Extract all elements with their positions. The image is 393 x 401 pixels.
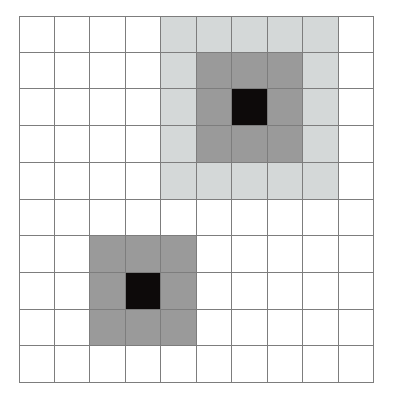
grid-cell-r2-c2 bbox=[55, 53, 91, 90]
grid-cell-r6-c1 bbox=[19, 200, 55, 237]
grid-cell-r1-c2 bbox=[55, 16, 91, 53]
grid-cell-r10-c6 bbox=[197, 346, 233, 383]
grid-cell-r4-c2 bbox=[55, 126, 91, 163]
grid-cell-r2-c7 bbox=[232, 53, 268, 90]
grid-cell-r10-c1 bbox=[19, 346, 55, 383]
grid-cell-r1-c1 bbox=[19, 16, 55, 53]
grid-cell-r3-c2 bbox=[55, 89, 91, 126]
grid-cell-r2-c4 bbox=[126, 53, 162, 90]
grid-cell-r4-c6 bbox=[197, 126, 233, 163]
grid-cell-r2-c5 bbox=[161, 53, 197, 90]
grid-cell-r6-c6 bbox=[197, 200, 233, 237]
grid-cell-r7-c8 bbox=[268, 236, 304, 273]
grid-cell-r8-c9 bbox=[303, 273, 339, 310]
grid-cell-r3-c5 bbox=[161, 89, 197, 126]
grid-cell-r10-c10 bbox=[339, 346, 375, 383]
grid-cell-r6-c9 bbox=[303, 200, 339, 237]
grid-cell-r7-c4 bbox=[126, 236, 162, 273]
grid-cell-r5-c1 bbox=[19, 163, 55, 200]
grid-cell-r9-c6 bbox=[197, 310, 233, 347]
grid-cell-r3-c3 bbox=[90, 89, 126, 126]
grid-cell-r4-c3 bbox=[90, 126, 126, 163]
grid-cell-r8-c1 bbox=[19, 273, 55, 310]
grid-cell-r3-c9 bbox=[303, 89, 339, 126]
grid-cell-r6-c3 bbox=[90, 200, 126, 237]
grid-cell-r4-c5 bbox=[161, 126, 197, 163]
grid-cell-r8-c3 bbox=[90, 273, 126, 310]
grid-cell-r5-c10 bbox=[339, 163, 375, 200]
grid-cell-r9-c3 bbox=[90, 310, 126, 347]
grid-cell-r9-c7 bbox=[232, 310, 268, 347]
grid-cell-r10-c2 bbox=[55, 346, 91, 383]
grid-cell-r3-c4 bbox=[126, 89, 162, 126]
grid-cells bbox=[19, 16, 374, 383]
grid-container bbox=[19, 16, 374, 383]
grid-cell-r2-c3 bbox=[90, 53, 126, 90]
grid-figure-canvas bbox=[0, 0, 393, 401]
grid-cell-r9-c10 bbox=[339, 310, 375, 347]
grid-cell-r9-c1 bbox=[19, 310, 55, 347]
grid-cell-r5-c7 bbox=[232, 163, 268, 200]
grid-cell-r4-c8 bbox=[268, 126, 304, 163]
grid-cell-r2-c1 bbox=[19, 53, 55, 90]
grid-cell-r4-c7 bbox=[232, 126, 268, 163]
grid-cell-r8-c4 bbox=[126, 273, 162, 310]
grid-cell-r8-c2 bbox=[55, 273, 91, 310]
grid-cell-r9-c5 bbox=[161, 310, 197, 347]
grid-cell-r6-c8 bbox=[268, 200, 304, 237]
grid-cell-r7-c6 bbox=[197, 236, 233, 273]
grid-cell-r4-c10 bbox=[339, 126, 375, 163]
grid-cell-r3-c6 bbox=[197, 89, 233, 126]
grid-cell-r8-c7 bbox=[232, 273, 268, 310]
grid-cell-r1-c10 bbox=[339, 16, 375, 53]
grid-cell-r4-c1 bbox=[19, 126, 55, 163]
grid-cell-r1-c7 bbox=[232, 16, 268, 53]
grid-cell-r6-c10 bbox=[339, 200, 375, 237]
grid-cell-r6-c2 bbox=[55, 200, 91, 237]
grid-cell-r5-c2 bbox=[55, 163, 91, 200]
grid-cell-r3-c1 bbox=[19, 89, 55, 126]
grid-cell-r9-c9 bbox=[303, 310, 339, 347]
grid-cell-r6-c7 bbox=[232, 200, 268, 237]
grid-cell-r3-c8 bbox=[268, 89, 304, 126]
grid-cell-r7-c10 bbox=[339, 236, 375, 273]
grid-cell-r10-c8 bbox=[268, 346, 304, 383]
grid-cell-r2-c10 bbox=[339, 53, 375, 90]
grid-cell-r1-c9 bbox=[303, 16, 339, 53]
grid-cell-r7-c1 bbox=[19, 236, 55, 273]
grid-cell-r5-c9 bbox=[303, 163, 339, 200]
grid-cell-r10-c3 bbox=[90, 346, 126, 383]
grid-cell-r1-c5 bbox=[161, 16, 197, 53]
grid-cell-r1-c6 bbox=[197, 16, 233, 53]
grid-cell-r8-c8 bbox=[268, 273, 304, 310]
grid-cell-r7-c9 bbox=[303, 236, 339, 273]
grid-cell-r10-c9 bbox=[303, 346, 339, 383]
grid-cell-r7-c3 bbox=[90, 236, 126, 273]
grid-cell-r5-c3 bbox=[90, 163, 126, 200]
grid-cell-r9-c8 bbox=[268, 310, 304, 347]
grid-cell-r4-c4 bbox=[126, 126, 162, 163]
grid-cell-r1-c4 bbox=[126, 16, 162, 53]
grid-cell-r10-c4 bbox=[126, 346, 162, 383]
grid-cell-r3-c10 bbox=[339, 89, 375, 126]
grid-cell-r7-c2 bbox=[55, 236, 91, 273]
grid-cell-r5-c5 bbox=[161, 163, 197, 200]
grid-cell-r8-c10 bbox=[339, 273, 375, 310]
grid-cell-r1-c8 bbox=[268, 16, 304, 53]
grid-cell-r8-c6 bbox=[197, 273, 233, 310]
grid-cell-r7-c7 bbox=[232, 236, 268, 273]
grid-cell-r1-c3 bbox=[90, 16, 126, 53]
grid-cell-r5-c4 bbox=[126, 163, 162, 200]
grid-cell-r5-c6 bbox=[197, 163, 233, 200]
grid-cell-r5-c8 bbox=[268, 163, 304, 200]
grid-cell-r2-c8 bbox=[268, 53, 304, 90]
grid-cell-r8-c5 bbox=[161, 273, 197, 310]
grid-cell-r6-c5 bbox=[161, 200, 197, 237]
grid-cell-r2-c9 bbox=[303, 53, 339, 90]
grid-cell-r6-c4 bbox=[126, 200, 162, 237]
grid-cell-r7-c5 bbox=[161, 236, 197, 273]
grid-cell-r2-c6 bbox=[197, 53, 233, 90]
grid-cell-r10-c5 bbox=[161, 346, 197, 383]
grid-cell-r4-c9 bbox=[303, 126, 339, 163]
grid-cell-r10-c7 bbox=[232, 346, 268, 383]
